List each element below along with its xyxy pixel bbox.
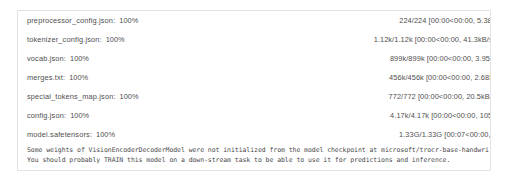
- progress-bar-track: [129, 35, 368, 44]
- warning-line-1: Some weights of VisionEncoderDecoderMode…: [27, 145, 490, 155]
- progress-row: tokenizer_config.json: 100% 1.12k/1.12k …: [18, 30, 490, 49]
- progress-file-label: config.json:: [27, 111, 66, 120]
- progress-bar-track: [142, 16, 393, 25]
- progress-stats: 224/224 [00:00<00:00, 5.38kB/s]: [399, 16, 491, 25]
- progress-row: model.safetensors: 100% 1.33G/1.33G [00:…: [18, 125, 490, 144]
- progress-percent: 100%: [96, 130, 115, 139]
- progress-row: special_tokens_map.json: 100% 772/772 [0…: [18, 87, 490, 106]
- progress-row: generation_config.json: 100% 190/190 [00…: [18, 166, 490, 171]
- progress-stats: 4.17k/4.17k [00:00<00:00, 105kB/s]: [390, 111, 491, 120]
- progress-percent: 100%: [119, 16, 138, 25]
- progress-bar-track: [93, 54, 384, 63]
- progress-row: config.json: 100% 4.17k/4.17k [00:00<00:…: [18, 106, 490, 125]
- progress-percent: 100%: [120, 92, 139, 101]
- progress-percent: 100%: [70, 54, 89, 63]
- progress-stats: 1.33G/1.33G [00:07<00:00, 269MB/s]: [399, 130, 491, 139]
- progress-stats: 772/772 [00:00<00:00, 20.5kB/s]: [389, 92, 491, 101]
- progress-bar-track: [119, 130, 393, 139]
- progress-stats: 456k/456k [00:00<00:00, 2.68MB/s]: [389, 73, 491, 82]
- progress-file-label: vocab.json:: [27, 54, 66, 63]
- progress-bar-track: [93, 111, 384, 120]
- progress-file-label: preprocessor_config.json:: [27, 16, 115, 25]
- warning-message: Some weights of VisionEncoderDecoderMode…: [18, 144, 490, 166]
- progress-percent: 100%: [70, 111, 89, 120]
- progress-stats: 1.12k/1.12k [00:00<00:00, 41.3kB/s]: [374, 35, 491, 44]
- progress-percent: 100%: [69, 73, 88, 82]
- progress-file-label: special_tokens_map.json:: [27, 92, 116, 101]
- progress-bar-track: [143, 92, 383, 101]
- progress-row: preprocessor_config.json: 100% 224/224 […: [18, 11, 490, 30]
- progress-file-label: tokenizer_config.json:: [27, 35, 102, 44]
- progress-row: vocab.json: 100% 899k/899k [00:00<00:00,…: [18, 49, 490, 68]
- download-progress-panel: preprocessor_config.json: 100% 224/224 […: [17, 10, 491, 171]
- progress-row: merges.txt: 100% 456k/456k [00:00<00:00,…: [18, 68, 490, 87]
- progress-percent: 100%: [106, 35, 125, 44]
- progress-file-label: merges.txt:: [27, 73, 65, 82]
- progress-stats: 899k/899k [00:00<00:00, 3.95MB/s]: [390, 54, 491, 63]
- progress-file-label: model.safetensors:: [27, 130, 92, 139]
- progress-bar-track: [92, 73, 383, 82]
- warning-line-2: You should probably TRAIN this model on …: [27, 155, 490, 165]
